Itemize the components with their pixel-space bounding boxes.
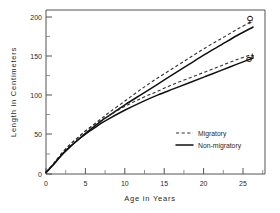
y-tick-label-100: 100 bbox=[30, 92, 42, 99]
growth-curve-chart: 200 150 100 50 0 0 5 10 15 20 bbox=[0, 0, 280, 213]
x-axis-tick-labels: 0 5 10 15 20 25 bbox=[44, 180, 247, 187]
chart-figure: 200 150 100 50 0 0 5 10 15 20 bbox=[0, 0, 280, 213]
female-symbol-annotation: ♀ bbox=[246, 14, 253, 25]
x-axis-ticks bbox=[46, 168, 263, 174]
y-axis-ticks bbox=[46, 17, 52, 174]
male-symbol-annotation: ♂ bbox=[246, 53, 255, 64]
legend-label-non-migratory: Non-migratory bbox=[198, 142, 242, 150]
y-tick-label-150: 150 bbox=[30, 53, 42, 60]
y-axis-tick-labels: 200 150 100 50 0 bbox=[30, 14, 42, 178]
x-tick-label-15: 15 bbox=[160, 180, 168, 187]
x-tick-label-20: 20 bbox=[200, 180, 208, 187]
y-axis-title: Length in Centimeters bbox=[9, 47, 18, 137]
x-tick-label-5: 5 bbox=[83, 180, 87, 187]
plot-frame bbox=[46, 10, 265, 174]
x-tick-label-25: 25 bbox=[239, 180, 247, 187]
y-tick-label-0: 0 bbox=[38, 171, 42, 178]
curve-male-non-migratory bbox=[46, 58, 253, 172]
y-tick-label-200: 200 bbox=[30, 14, 42, 21]
chart-legend: Migratory Non-migratory bbox=[176, 130, 242, 150]
x-tick-label-10: 10 bbox=[121, 180, 129, 187]
curve-female-non-migratory bbox=[46, 27, 253, 172]
data-curves bbox=[46, 21, 253, 173]
curve-male-migratory bbox=[46, 54, 253, 172]
x-axis-title: Age in Years bbox=[124, 194, 176, 203]
y-tick-label-50: 50 bbox=[34, 131, 42, 138]
legend-label-migratory: Migratory bbox=[198, 130, 227, 138]
x-tick-label-0: 0 bbox=[44, 180, 48, 187]
